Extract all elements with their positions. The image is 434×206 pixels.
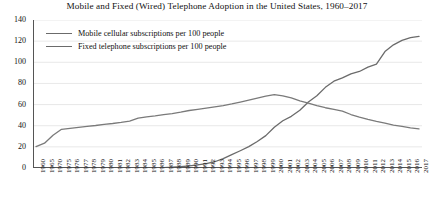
- x-tick-label: 1994: [226, 159, 234, 173]
- legend-swatch-fixed-icon: [46, 46, 72, 47]
- x-tick-label: 2002: [294, 159, 302, 173]
- chart-figure: Mobile and Fixed (Wired) Telephone Adopt…: [0, 0, 434, 206]
- x-tick-label: 2013: [388, 159, 396, 173]
- x-tick-label: 1995: [235, 159, 243, 173]
- y-tick-label: 140: [2, 15, 26, 24]
- legend-label-mobile: Mobile cellular subscriptions per 100 pe…: [78, 29, 224, 38]
- x-tick-label: 1993: [218, 159, 226, 173]
- x-tick-label: 1998: [260, 159, 268, 173]
- x-tick-label: 1988: [175, 159, 183, 173]
- legend-swatch-mobile-icon: [46, 33, 72, 34]
- x-tick-label: 2014: [396, 159, 404, 173]
- x-tick-label: 1991: [201, 159, 209, 173]
- x-tick-label: 1984: [141, 159, 149, 173]
- x-tick-label: 1976: [73, 159, 81, 173]
- x-tick-label: 1970: [56, 159, 64, 173]
- y-tick-label: 120: [2, 36, 26, 45]
- x-tick-label: 1987: [167, 159, 175, 173]
- series-line: [36, 95, 419, 147]
- x-tick-label: 2012: [379, 159, 387, 173]
- x-tick-label: 2016: [413, 159, 421, 173]
- x-tick-label: 2004: [311, 159, 319, 173]
- x-tick-label: 2011: [371, 159, 379, 173]
- x-tick-label: 2010: [362, 159, 370, 173]
- x-tick-label: 1989: [184, 159, 192, 173]
- series-lines: [36, 36, 419, 168]
- x-tick-label: 1983: [133, 159, 141, 173]
- x-tick-label: 1977: [82, 159, 90, 173]
- chart-title: Mobile and Fixed (Wired) Telephone Adopt…: [0, 1, 434, 11]
- x-tick-label: 2001: [286, 159, 294, 173]
- x-tick-label: 1999: [269, 159, 277, 173]
- legend-item-fixed: Fixed telephone subscriptions per 100 pe…: [46, 40, 226, 53]
- y-tick-label: 40: [2, 121, 26, 130]
- x-tick-label: 2017: [422, 159, 430, 173]
- x-tick-label: 1960: [39, 159, 47, 173]
- y-tick-label: 20: [2, 142, 26, 151]
- series-line: [36, 36, 419, 168]
- x-tick-label: 1992: [209, 159, 217, 173]
- y-tick-label: 100: [2, 57, 26, 66]
- x-tick-label: 1978: [90, 159, 98, 173]
- x-tick-label: 1996: [243, 159, 251, 173]
- x-tick-label: 2006: [328, 159, 336, 173]
- x-tick-label: 1980: [107, 159, 115, 173]
- x-tick-label: 1965: [48, 159, 56, 173]
- x-tick-label: 1981: [116, 159, 124, 173]
- x-tick-label: 1997: [252, 159, 260, 173]
- x-tick-label: 1975: [65, 159, 73, 173]
- legend-label-fixed: Fixed telephone subscriptions per 100 pe…: [78, 42, 226, 51]
- x-tick-label: 1979: [99, 159, 107, 173]
- x-tick-label: 2003: [303, 159, 311, 173]
- x-tick-label: 2008: [345, 159, 353, 173]
- x-tick-label: 2000: [277, 159, 285, 173]
- y-tick-label: 0: [2, 163, 26, 172]
- x-tick-label: 1986: [158, 159, 166, 173]
- x-tick-label: 2005: [320, 159, 328, 173]
- y-tick-label: 60: [2, 100, 26, 109]
- x-tick-label: 2007: [337, 159, 345, 173]
- x-tick-label: 2009: [354, 159, 362, 173]
- x-tick-label: 1982: [124, 159, 132, 173]
- chart-legend: Mobile cellular subscriptions per 100 pe…: [46, 27, 226, 53]
- x-tick-label: 1990: [192, 159, 200, 173]
- x-tick-label: 1985: [150, 159, 158, 173]
- x-tick-label: 2015: [405, 159, 413, 173]
- y-tick-label: 80: [2, 78, 26, 87]
- legend-item-mobile: Mobile cellular subscriptions per 100 pe…: [46, 27, 226, 40]
